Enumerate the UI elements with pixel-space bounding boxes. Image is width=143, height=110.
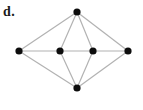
node-mid-right [89, 47, 96, 54]
node-mid-left [56, 47, 63, 54]
node-bottom [73, 84, 80, 91]
node-top [73, 8, 80, 15]
node-right [124, 47, 131, 54]
graph-canvas [0, 0, 143, 110]
graph-figure: d. [0, 0, 143, 110]
node-left [15, 47, 22, 54]
